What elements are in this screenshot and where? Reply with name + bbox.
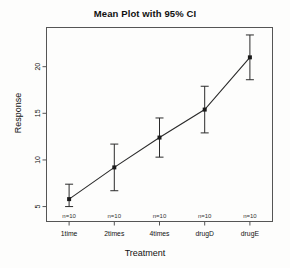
sample-size-label: n=10 [62, 213, 76, 219]
x-tick-label: 4times [149, 230, 170, 237]
error-bars [65, 35, 254, 207]
y-tick-label: 20 [34, 63, 41, 71]
data-point-marker [158, 136, 162, 140]
sample-size-label: n=10 [198, 213, 212, 219]
sample-size-annotations: n=10n=10n=10n=10n=10 [62, 213, 257, 219]
sample-size-label: n=10 [153, 213, 167, 219]
sample-size-label: n=10 [243, 213, 257, 219]
y-tick-label: 10 [34, 156, 41, 164]
x-axis-ticks [69, 222, 250, 226]
x-tick-label: 1time [61, 230, 78, 237]
y-axis-ticks: 5101520 [34, 63, 46, 209]
x-tick-label: drugE [241, 230, 260, 238]
data-point-marker [67, 197, 71, 201]
y-tick-label: 5 [34, 205, 41, 209]
x-tick-label: drugD [195, 230, 214, 238]
data-point-marker [203, 108, 207, 112]
data-point-marker [112, 165, 116, 169]
data-point-marker [248, 55, 252, 59]
y-tick-label: 15 [34, 109, 41, 117]
x-tick-label: 2times [104, 230, 125, 237]
sample-size-label: n=10 [108, 213, 122, 219]
x-axis-tick-labels: 1time2times4timesdrugDdrugE [61, 230, 260, 238]
plot-area: 5101520 n=10n=10n=10n=10n=10 1time2times… [0, 0, 290, 268]
mean-plot-figure: Mean Plot with 95% CI Response Treatment… [0, 0, 290, 268]
